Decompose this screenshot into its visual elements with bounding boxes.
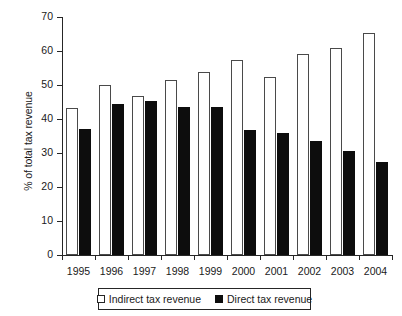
y-axis-tick: 60 — [57, 51, 62, 52]
bar — [211, 107, 224, 255]
bar — [343, 151, 356, 255]
legend-entry: Indirect tax revenue — [97, 293, 201, 305]
plot-area: 706050403020100 199519961997199819992000… — [62, 17, 392, 255]
y-axis-tick: 40 — [57, 119, 62, 120]
y-axis-tick-label: 60 — [41, 44, 53, 56]
x-axis-tick — [392, 255, 393, 260]
bar — [264, 77, 277, 255]
x-axis-tick — [62, 255, 63, 260]
legend-label: Indirect tax revenue — [109, 293, 201, 305]
bar — [297, 54, 310, 255]
x-axis-tick — [227, 255, 228, 260]
bar — [310, 141, 323, 255]
x-axis-tick — [260, 255, 261, 260]
bar — [277, 133, 290, 255]
legend-label: Direct tax revenue — [227, 293, 312, 305]
chart-legend: Indirect tax revenueDirect tax revenue — [98, 288, 311, 310]
bar — [363, 33, 376, 255]
bar — [99, 85, 112, 255]
bar — [112, 104, 125, 255]
y-axis-tick: 70 — [57, 17, 62, 18]
y-axis-title: % of total tax revenue — [22, 56, 34, 226]
tax-revenue-bar-chart: % of total tax revenue 706050403020100 1… — [0, 0, 402, 316]
legend-entry: Direct tax revenue — [215, 293, 312, 305]
y-axis-tick-label: 20 — [41, 180, 53, 192]
bar — [165, 80, 178, 255]
y-axis-tick: 30 — [57, 153, 62, 154]
x-axis-tick — [95, 255, 96, 260]
x-axis-tick — [194, 255, 195, 260]
bar — [244, 130, 257, 255]
x-axis-tick — [128, 255, 129, 260]
x-axis-tick — [161, 255, 162, 260]
bar — [132, 96, 145, 255]
bar — [66, 108, 79, 255]
x-axis-tick-label: 2004 — [346, 265, 402, 277]
y-axis-tick-label: 0 — [47, 248, 53, 260]
bar — [330, 48, 343, 255]
x-axis-tick — [359, 255, 360, 260]
y-axis-tick-label: 50 — [41, 78, 53, 90]
bar — [376, 162, 389, 255]
y-axis-tick: 50 — [57, 85, 62, 86]
y-axis-tick: 10 — [57, 221, 62, 222]
bar — [145, 101, 158, 255]
bar — [198, 72, 211, 255]
y-axis-tick-label: 30 — [41, 146, 53, 158]
bar — [79, 129, 92, 255]
x-axis-tick — [326, 255, 327, 260]
y-axis-tick: 20 — [57, 187, 62, 188]
black-square-icon — [215, 295, 223, 303]
y-axis-tick-label: 10 — [41, 214, 53, 226]
x-axis-tick — [293, 255, 294, 260]
y-axis-tick-label: 70 — [41, 10, 53, 22]
bar — [231, 60, 244, 256]
white-square-icon — [97, 295, 105, 303]
y-axis-tick-label: 40 — [41, 112, 53, 124]
bar — [178, 107, 191, 255]
y-axis-line — [62, 17, 63, 255]
